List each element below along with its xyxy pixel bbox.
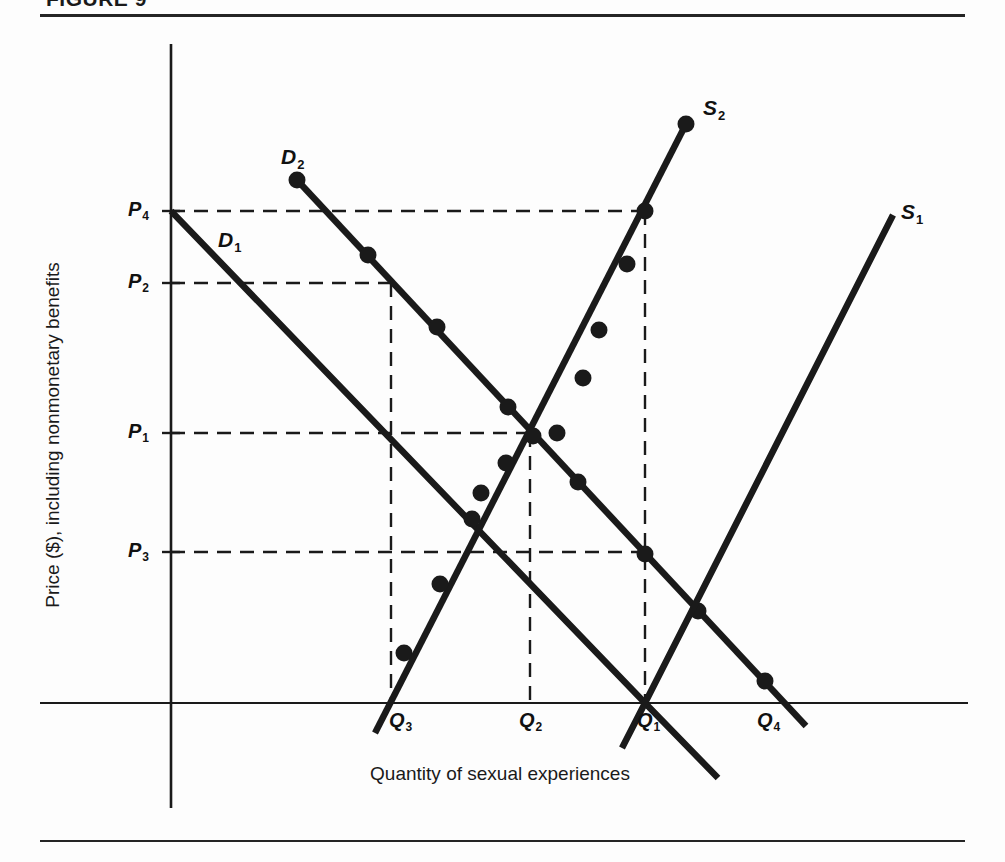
y-tick-p2: P2 (128, 270, 148, 293)
curve-d2 (297, 180, 806, 726)
data-point-s2-11 (396, 645, 413, 662)
y-axis-title: Price ($), including nonmonetary benefit… (42, 225, 64, 645)
plot-canvas (0, 0, 1005, 862)
curve-label-s2: S2 (703, 96, 724, 120)
data-point-s2-4 (575, 370, 592, 387)
data-point-d2-3 (500, 399, 517, 416)
data-point-s2-10 (432, 576, 449, 593)
data-point-d2-7 (757, 673, 774, 690)
y-tick-p1: P1 (128, 420, 148, 443)
data-point-d2-5 (637, 546, 654, 563)
curve-label-d1: D1 (218, 228, 240, 252)
data-point-s2-7 (498, 455, 515, 472)
data-point-s2-6 (525, 428, 542, 445)
data-point-s2-5 (549, 425, 566, 442)
curve-s1 (622, 215, 893, 748)
data-point-s2-1 (637, 203, 654, 220)
y-tick-p3: P3 (128, 539, 148, 562)
figure-root: FIGURE 9 Price ($), including nonmonetar… (0, 0, 1005, 862)
x-tick-q3: Q3 (389, 709, 411, 732)
data-point-s2-0 (678, 116, 695, 133)
x-tick-q2: Q2 (519, 709, 541, 732)
x-tick-q4: Q4 (757, 709, 779, 732)
data-point-d2-0 (289, 172, 306, 189)
data-point-d2-4 (570, 474, 587, 491)
y-tick-p4: P4 (128, 198, 148, 221)
data-point-s2-8 (473, 485, 490, 502)
x-tick-q1: Q1 (637, 709, 659, 732)
curve-d1 (171, 211, 718, 778)
bottom-rule (40, 840, 965, 842)
data-point-s2-2 (619, 256, 636, 273)
data-point-s2-9 (464, 511, 481, 528)
curve-label-d2: D2 (281, 145, 303, 169)
x-axis-title: Quantity of sexual experiences (260, 763, 740, 785)
curve-label-s1: S1 (901, 200, 922, 224)
data-point-d2-2 (429, 319, 446, 336)
data-point-s2-3 (591, 322, 608, 339)
data-point-d2-1 (360, 247, 377, 264)
